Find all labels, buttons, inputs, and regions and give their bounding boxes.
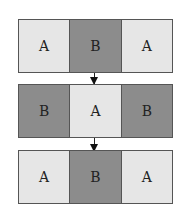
cell-2-3: B [121, 85, 172, 137]
row-1: A B A [18, 19, 173, 73]
cell-1-3: A [121, 20, 172, 72]
row-2: B A B [18, 84, 173, 138]
cell-3-2: B [69, 151, 120, 203]
cell-2-2: A [69, 85, 120, 137]
cell-1-2: B [69, 20, 120, 72]
cell-1-1: A [19, 20, 69, 72]
cell-3-1: A [19, 151, 69, 203]
row-3: A B A [18, 150, 173, 204]
down-arrow-icon [94, 73, 95, 84]
cell-2-1: B [19, 85, 69, 137]
cell-3-3: A [121, 151, 172, 203]
